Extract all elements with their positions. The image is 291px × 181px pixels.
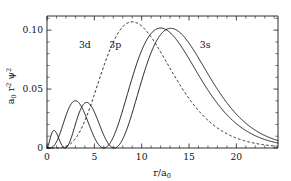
x-axis-title-sub: 0 <box>167 172 171 180</box>
y-axis-title-psi-sup: 2 <box>5 68 13 72</box>
x-tick-label: 20 <box>230 151 242 162</box>
y-tick-label: 0.10 <box>23 24 44 35</box>
x-tick-label: 15 <box>183 151 195 162</box>
y-tick-label: 0.05 <box>23 83 44 94</box>
radial-probability-plot: 05101520 00.050.10 3d 3p 3s r/a0 a0 r2 ψ… <box>0 0 291 181</box>
series-label-3s: 3s <box>200 39 211 50</box>
x-axis-title-main: r/a <box>153 167 167 178</box>
chart-figure: 05101520 00.050.10 3d 3p 3s r/a0 a0 r2 ψ… <box>0 0 291 181</box>
x-tick-label: 10 <box>136 151 148 162</box>
series-label-3p: 3p <box>109 39 121 50</box>
x-tick-label: 0 <box>44 151 50 162</box>
x-tick-label: 5 <box>91 151 97 162</box>
y-axis-title-psi: ψ <box>5 72 16 80</box>
series-label-3d: 3d <box>79 39 91 50</box>
y-tick-label: 0 <box>37 142 43 153</box>
